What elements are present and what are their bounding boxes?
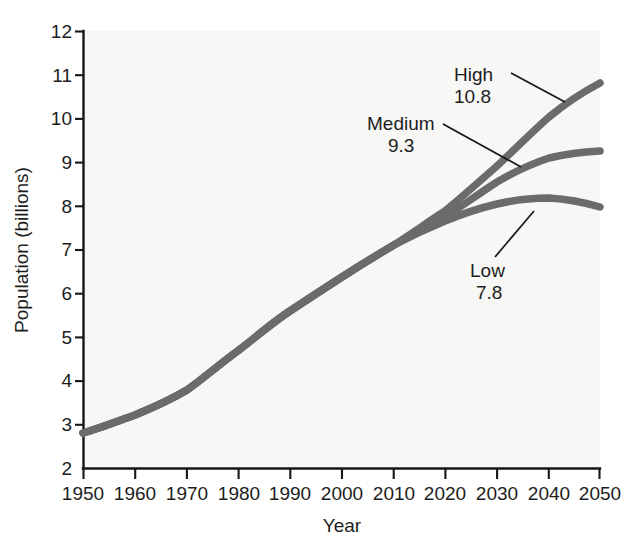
x-tick-label: 1980 bbox=[218, 483, 260, 504]
annotation-medium-label: Medium bbox=[367, 113, 435, 134]
annotation-low-label: Low bbox=[470, 260, 505, 281]
y-tick-label: 5 bbox=[61, 327, 72, 348]
y-tick-label: 10 bbox=[51, 108, 72, 129]
x-axis-tick-labels: 1950 1960 1970 1980 1990 2000 2010 2020 … bbox=[62, 483, 621, 504]
x-tick-label: 2030 bbox=[476, 483, 518, 504]
x-tick-label: 2040 bbox=[528, 483, 570, 504]
annotation-high-value: 10.8 bbox=[454, 86, 491, 107]
x-tick-label: 1950 bbox=[62, 483, 104, 504]
y-tick-label: 7 bbox=[61, 239, 72, 260]
chart-canvas: 12 11 10 9 8 7 6 5 4 3 2 bbox=[0, 0, 632, 546]
x-axis bbox=[83, 468, 600, 479]
y-tick-label: 4 bbox=[61, 370, 72, 391]
y-axis-title: Population (billions) bbox=[11, 167, 32, 333]
y-tick-label: 2 bbox=[61, 458, 72, 479]
x-tick-label: 1970 bbox=[166, 483, 208, 504]
x-axis-title: Year bbox=[323, 515, 362, 536]
annotation-high-label: High bbox=[454, 64, 493, 85]
y-tick-label: 6 bbox=[61, 283, 72, 304]
x-tick-label: 1990 bbox=[269, 483, 311, 504]
x-tick-label: 2010 bbox=[373, 483, 415, 504]
y-tick-label: 12 bbox=[51, 21, 72, 42]
x-tick-label: 2020 bbox=[424, 483, 466, 504]
y-axis-tick-labels: 12 11 10 9 8 7 6 5 4 3 2 bbox=[51, 21, 73, 479]
y-tick-label: 11 bbox=[52, 65, 72, 86]
annotation-medium-value: 9.3 bbox=[388, 135, 414, 156]
y-axis bbox=[75, 31, 84, 468]
population-projection-chart: 12 11 10 9 8 7 6 5 4 3 2 bbox=[0, 0, 632, 546]
x-tick-label: 1960 bbox=[114, 483, 156, 504]
x-tick-label: 2000 bbox=[321, 483, 363, 504]
y-tick-label: 9 bbox=[61, 152, 72, 173]
y-tick-label: 3 bbox=[61, 414, 72, 435]
annotation-low-value: 7.8 bbox=[476, 282, 502, 303]
y-tick-label: 8 bbox=[61, 196, 72, 217]
x-tick-label: 2050 bbox=[579, 483, 621, 504]
